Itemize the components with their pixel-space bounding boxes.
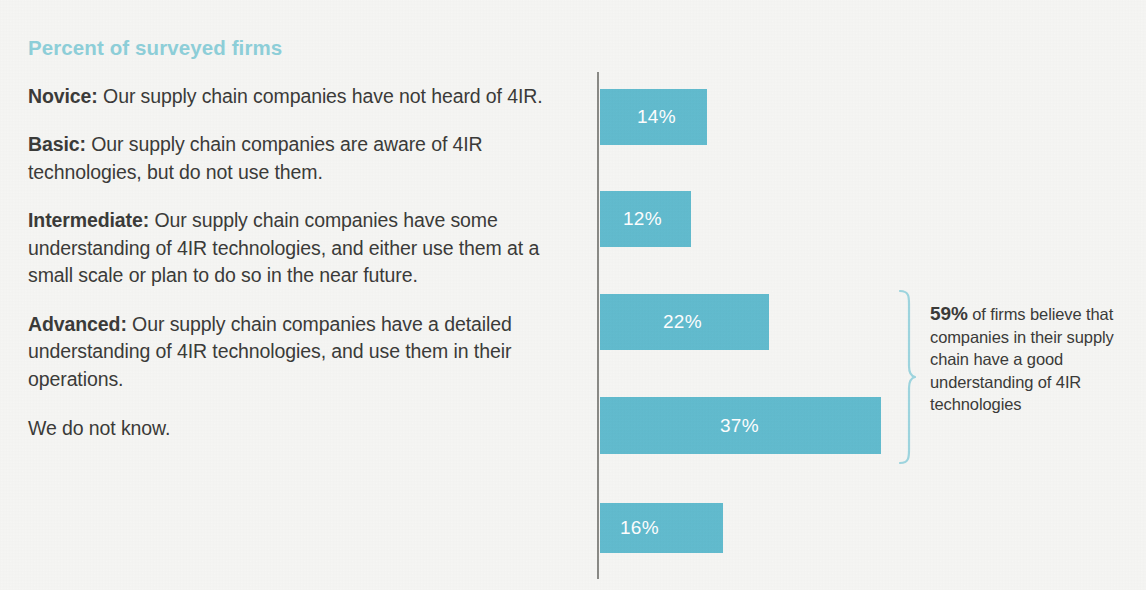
bar-novice: 14%	[600, 89, 707, 145]
bar-value-label: 22%	[663, 311, 702, 333]
bar-intermediate: 22%	[600, 294, 769, 350]
bar-we-do-not-know: 16%	[600, 503, 723, 553]
bar-value-label: 14%	[637, 106, 676, 128]
bar-value-label: 12%	[623, 208, 662, 230]
callout-percent: 59%	[930, 303, 968, 324]
bar-basic: 12%	[600, 191, 691, 247]
figure-root: Percent of surveyed firms Novice: Our su…	[0, 0, 1146, 590]
bar-chart-plot: 14% 12% 22% 37% 16% 59% of firms believe…	[0, 0, 1146, 590]
curly-brace-icon	[886, 288, 916, 466]
callout-annotation: 59% of firms believe that companies in t…	[930, 303, 1138, 416]
bar-advanced: 37%	[600, 397, 881, 454]
value-axis-line	[597, 72, 599, 579]
bar-value-label: 37%	[720, 415, 759, 437]
bar-value-label: 16%	[620, 517, 659, 539]
